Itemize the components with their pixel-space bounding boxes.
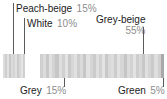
callout-white: White 10% [27, 16, 77, 29]
callout-peach-beige-label: Peach-beige [16, 3, 72, 14]
colour-strip-segment-left [3, 54, 25, 78]
callout-white-label: White [27, 18, 53, 29]
callout-grey-beige: Grey-beige 55% [96, 14, 145, 36]
colour-strip-segment-right [40, 54, 164, 78]
callout-grey: Grey 15% [20, 83, 66, 96]
callout-grey-label: Grey [20, 85, 42, 96]
colour-strip [0, 54, 167, 78]
colour-stripe [161, 54, 164, 78]
colour-stripe [23, 54, 25, 78]
colour-distribution-chart: Peach-beige 15% White 10% Grey-beige 55%… [0, 0, 167, 99]
callout-green: Green 5% [118, 83, 165, 96]
callout-peach-beige-percent: 15% [77, 3, 97, 14]
callout-grey-beige-percent: 55% [96, 25, 145, 36]
callout-grey-beige-label: Grey-beige [96, 14, 145, 25]
callout-white-percent: 10% [57, 18, 77, 29]
callout-green-label: Green [118, 85, 146, 96]
